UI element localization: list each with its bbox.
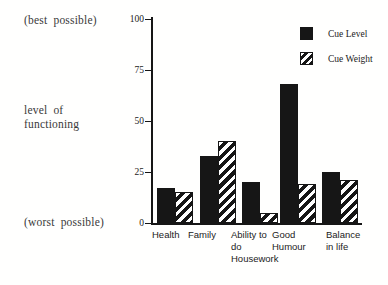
y-axis-title-line1: level of [24,103,79,117]
bar-cue-weight-ability-to-do-housework [260,213,278,223]
y-axis-title: level of functioning [24,103,79,131]
legend-item-solid: Cue Level [300,27,367,40]
legend-swatch-solid-icon [300,27,313,40]
bar-cue-level-health [157,188,175,223]
bar-cue-level-family [200,156,218,223]
y-tick-label-75: 75 [108,65,144,75]
bar-cue-level-ability-to-do-housework [242,182,260,223]
y-tick-label-0: 0 [108,218,144,228]
y-tick-75 [145,70,152,71]
category-label-health: Health [152,229,179,241]
y-tick-0 [145,223,152,224]
label-best-possible: (best possible) [24,14,97,26]
category-label-family: Family [188,229,216,241]
bar-cue-weight-balance-in-life [340,180,358,223]
bar-cue-weight-good-humour [298,184,316,223]
y-tick-25 [145,172,152,173]
bar-cue-weight-family [218,141,236,223]
x-axis-line [151,223,362,225]
y-tick-100 [145,19,152,20]
legend-label: Cue Level [328,29,367,39]
y-tick-label-25: 25 [108,167,144,177]
legend-item-hatched: Cue Weight [300,52,373,65]
legend-swatch-hatched-icon [300,52,313,65]
bar-cue-level-balance-in-life [322,172,340,223]
y-tick-label-50: 50 [108,116,144,126]
category-label-balance-in-life: Balance in life [326,229,360,253]
y-axis-title-line2: functioning [24,117,79,131]
bar-cue-weight-health [175,192,193,223]
label-worst-possible: (worst possible) [24,216,104,228]
y-tick-label-100: 100 [108,14,144,24]
y-tick-50 [145,121,152,122]
category-label-good-humour: Good Humour [272,229,306,253]
bar-cue-level-good-humour [280,84,298,223]
bar-chart-figure: (best possible) level of functioning (wo… [0,0,388,285]
legend-label: Cue Weight [328,54,373,64]
